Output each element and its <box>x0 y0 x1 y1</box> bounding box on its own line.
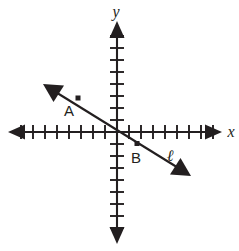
point-b-label: B <box>131 149 141 166</box>
point-a-label: A <box>64 102 74 119</box>
point-a-dot <box>76 96 81 101</box>
point-b-dot <box>135 141 140 146</box>
x-axis-left-arrowhead <box>8 125 25 140</box>
y-axis-label: y <box>110 3 120 21</box>
x-axis-group <box>8 125 222 140</box>
graph-canvas: A B ℓ x y <box>0 0 239 251</box>
y-axis-down-arrowhead <box>110 227 125 244</box>
coordinate-plane-figure: A B ℓ x y <box>0 0 239 251</box>
line-ell-label: ℓ <box>167 147 174 164</box>
x-axis-label: x <box>226 123 234 140</box>
line-ell-upper-left-arrowhead <box>43 84 64 102</box>
